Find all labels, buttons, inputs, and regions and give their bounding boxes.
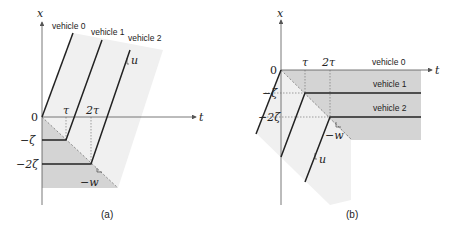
neg-2zeta-label: −2ζ <box>258 111 281 124</box>
caption-a: (a) <box>101 209 113 220</box>
vehicle-0-label: vehicle 0 <box>372 57 406 67</box>
2tau-label: 2τ <box>321 56 336 69</box>
neg-zeta-label: −ζ <box>20 134 36 147</box>
vehicle-0-label: vehicle 0 <box>52 21 86 31</box>
vehicle-1-label: vehicle 1 <box>91 27 125 37</box>
2tau-label: 2τ <box>85 104 100 117</box>
panel-b: x t 0 τ 2τ −ζ −2ζ vehicle 0 vehicle 1 ve… <box>256 7 440 220</box>
diagram-canvas: x t 0 τ 2τ −ζ −2ζ vehicle 0 vehicle 1 ve… <box>0 0 455 232</box>
vehicle-2-label: vehicle 2 <box>373 103 407 113</box>
slope-u-label: u <box>319 153 326 166</box>
panel-a: x t 0 τ 2τ −ζ −2ζ vehicle 0 vehicle 1 ve… <box>16 7 204 220</box>
slope-u-label: u <box>131 54 138 67</box>
vehicle-1-label: vehicle 1 <box>373 79 407 89</box>
x-axis-label: x <box>37 7 44 20</box>
tau-label: τ <box>302 56 309 69</box>
neg-zeta-label: −ζ <box>262 87 278 100</box>
tau-label: τ <box>63 104 70 117</box>
t-axis-label: t <box>435 64 440 77</box>
origin-label: 0 <box>31 111 38 124</box>
caption-b: (b) <box>346 209 358 220</box>
slope-w-label: −w <box>80 176 99 189</box>
neg-2zeta-label: −2ζ <box>16 158 39 171</box>
origin-label: 0 <box>270 64 277 77</box>
x-axis-label: x <box>277 7 284 20</box>
vehicle-2-label: vehicle 2 <box>128 33 162 43</box>
slope-w-label: −w <box>325 129 344 142</box>
t-axis-label: t <box>199 111 204 124</box>
